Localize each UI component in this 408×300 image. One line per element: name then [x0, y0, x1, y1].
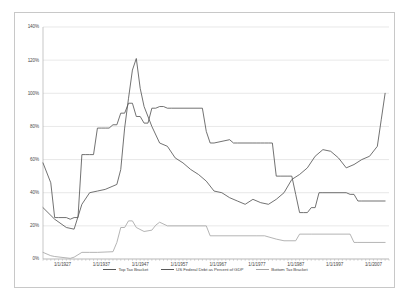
series-line-2 — [43, 221, 385, 258]
legend-line-swatch-icon — [256, 269, 269, 270]
legend-line-swatch-icon — [161, 269, 174, 270]
y-axis-tick-label: 120% — [17, 58, 39, 63]
legend-line-swatch-icon — [103, 269, 116, 270]
legend-label: Top Tax Bracket — [118, 267, 148, 272]
legend-item-2[interactable]: Bottom Tax Bracket — [256, 267, 307, 272]
legend-item-0[interactable]: Top Tax Bracket — [103, 267, 148, 272]
series-line-1 — [43, 58, 385, 229]
y-axis-tick-label: 140% — [17, 24, 39, 29]
y-axis-tick-label: 60% — [17, 157, 39, 162]
chart-plot-area — [15, 13, 396, 289]
y-axis-tick-label: 40% — [17, 190, 39, 195]
chart-legend: Top Tax BracketUS Federal Debt as Percen… — [15, 267, 396, 272]
legend-label: US Federal Debt as Percent of GDP — [176, 267, 243, 272]
data-series-lines — [43, 58, 385, 258]
legend-item-1[interactable]: US Federal Debt as Percent of GDP — [161, 267, 243, 272]
y-axis-tick-label: 0% — [17, 256, 39, 261]
y-axis-tick-label: 20% — [17, 223, 39, 228]
y-axis-tick-label: 100% — [17, 91, 39, 96]
series-line-0 — [43, 103, 385, 219]
chart-container: 0%20%40%60%80%100%120%140% 1/1/19271/1/1… — [14, 12, 395, 288]
y-axis-tick-label: 80% — [17, 124, 39, 129]
legend-label: Bottom Tax Bracket — [271, 267, 307, 272]
